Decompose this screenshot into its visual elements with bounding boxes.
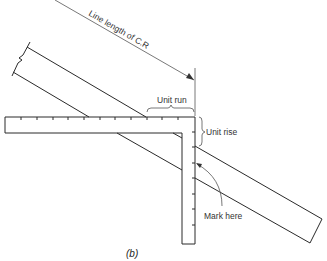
unit-run-label: Unit run	[157, 95, 187, 105]
arrowhead-icon	[196, 163, 202, 168]
arrowhead-icon	[186, 73, 194, 80]
mark-here-label: Mark here	[204, 211, 243, 221]
rafter-upper	[12, 42, 146, 117]
framing-square	[5, 117, 195, 244]
mark-here-leader	[196, 163, 222, 206]
line-length-label: Line length of C.R	[87, 8, 151, 51]
rafter-square-diagram: Line length of C.R	[0, 0, 327, 261]
break-symbol-icon	[12, 42, 30, 76]
unit-rise-brace	[199, 117, 205, 146]
figure-caption: (b)	[126, 248, 138, 259]
unit-rise-label: Unit rise	[206, 127, 237, 137]
unit-run-brace	[147, 105, 194, 112]
rafter-lower	[117, 133, 322, 243]
